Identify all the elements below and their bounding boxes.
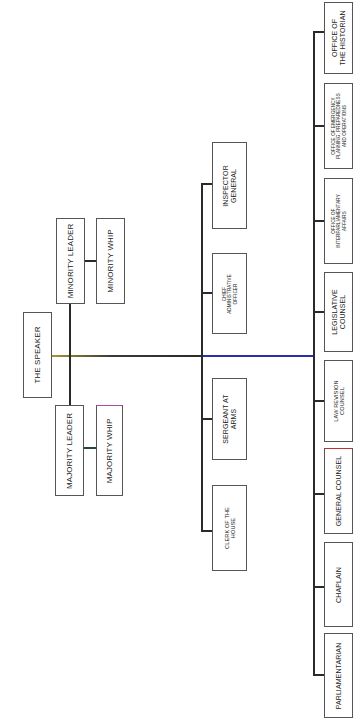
minority-whip-box: MINORITY WHIP xyxy=(96,218,125,304)
inspector-general-label: INSPECTOR GENERAL xyxy=(221,165,237,207)
majority-leader-box: MAJORITY LEADER xyxy=(55,405,84,496)
chief-administrative-officer-label: CHIEF ADMINISTRATIVE OFFICER xyxy=(222,274,238,314)
speaker-connector-left xyxy=(51,355,201,357)
leadership-spine xyxy=(69,303,71,405)
offices-spine xyxy=(313,31,315,676)
clerk-connector xyxy=(201,530,212,532)
law-revision-counsel-label: LAW REVISION COUNSEL xyxy=(332,380,345,421)
chaplain-connector xyxy=(313,586,324,588)
office-of-interparliamentary-affairs-box: OFFICE OF INTERPARLIAMENTARY AFFAIRS xyxy=(324,178,353,264)
officers-spine xyxy=(201,183,203,530)
cao-connector xyxy=(201,292,212,294)
chaplain-box: CHAPLAIN xyxy=(324,542,353,627)
office-of-the-historian-label: OFFICE OF THE HISTORIAN xyxy=(330,10,346,65)
speaker-box: THE SPEAKER xyxy=(23,312,52,398)
emergency-connector xyxy=(313,125,324,127)
office-of-emergency-planning-box: OFFICE OF EMERGENCY PLANNING, PREPAREDNE… xyxy=(324,83,353,169)
majority-leader-label: MAJORITY LEADER xyxy=(65,412,74,488)
majority-whip-box: MAJORITY WHIP xyxy=(96,405,123,496)
parliamentarian-label: PARLIAMENTARIAN xyxy=(334,642,342,709)
sergeant-connector xyxy=(201,418,212,420)
historian-connector xyxy=(313,31,324,33)
general-counsel-box: GENERAL COUNSEL xyxy=(324,448,353,534)
speaker-label: THE SPEAKER xyxy=(33,326,42,383)
general-counsel-connector xyxy=(313,493,324,495)
inspector-connector xyxy=(201,183,212,185)
minority-leader-label: MINORITY LEADER xyxy=(66,224,75,299)
office-of-emergency-planning-label: OFFICE OF EMERGENCY PLANNING, PREPAREDNE… xyxy=(331,93,347,159)
speaker-connector-right xyxy=(201,355,314,357)
minority-leader-box: MINORITY LEADER xyxy=(56,218,85,304)
clerk-of-the-house-box: CLERK OF THE HOUSE xyxy=(212,485,247,571)
chaplain-label: CHAPLAIN xyxy=(334,567,342,603)
legislative-counsel-box: LEGISLATIVE COUNSEL xyxy=(324,272,353,352)
chief-administrative-officer-box: CHIEF ADMINISTRATIVE OFFICER xyxy=(212,253,247,334)
law-revision-connector xyxy=(313,400,324,402)
office-of-the-historian-box: OFFICE OF THE HISTORIAN xyxy=(324,2,353,74)
interparliamentary-connector xyxy=(313,220,324,222)
law-revision-counsel-box: LAW REVISION COUNSEL xyxy=(324,360,353,442)
parliamentarian-box: PARLIAMENTARIAN xyxy=(324,633,353,718)
office-of-interparliamentary-affairs-label: OFFICE OF INTERPARLIAMENTARY AFFAIRS xyxy=(331,194,347,248)
parliamentarian-connector xyxy=(313,674,324,676)
legislative-connector xyxy=(313,311,324,313)
majority-whip-label: MAJORITY WHIP xyxy=(105,418,114,483)
minority-whip-connector xyxy=(84,260,96,262)
majority-whip-connector xyxy=(84,447,96,449)
legislative-counsel-label: LEGISLATIVE COUNSEL xyxy=(330,289,346,334)
general-counsel-label: GENERAL COUNSEL xyxy=(334,456,342,526)
minority-whip-label: MINORITY WHIP xyxy=(106,229,115,292)
sergeant-at-arms-label: SERGEANT AT ARMS xyxy=(221,394,237,443)
clerk-of-the-house-label: CLERK OF THE HOUSE xyxy=(223,507,236,549)
sergeant-at-arms-box: SERGEANT AT ARMS xyxy=(212,378,247,460)
inspector-general-box: INSPECTOR GENERAL xyxy=(212,142,247,229)
